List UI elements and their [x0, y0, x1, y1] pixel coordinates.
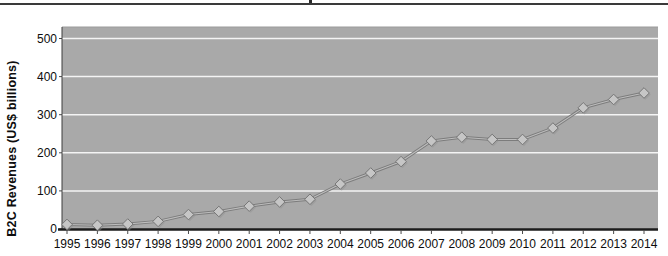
x-tick-label: 2002 [266, 237, 293, 251]
y-tick-label: 200 [37, 146, 57, 160]
x-tick-label: 2006 [388, 237, 415, 251]
x-tick-label: 2000 [205, 237, 232, 251]
y-tick-label: 400 [37, 70, 57, 84]
x-tick-label: 2014 [631, 237, 658, 251]
x-tick-label: 2012 [570, 237, 597, 251]
x-tick-label: 2004 [327, 237, 354, 251]
x-tick-label: 1996 [84, 237, 111, 251]
x-tick-label: 1999 [175, 237, 202, 251]
x-tick-label: 2013 [600, 237, 627, 251]
x-tick-label: 1997 [114, 237, 141, 251]
plot-background [62, 27, 658, 229]
x-tick-label: 2009 [479, 237, 506, 251]
x-tick-label: 1998 [145, 237, 172, 251]
plot-area: 0100200300400500199519961997199819992000… [0, 0, 668, 256]
y-tick-label: 500 [37, 32, 57, 46]
x-tick-label: 2007 [418, 237, 445, 251]
x-tick-label: 2011 [540, 237, 566, 251]
x-tick-label: 1995 [54, 237, 81, 251]
y-tick-label: 0 [50, 222, 57, 236]
x-tick-label: 2008 [448, 237, 475, 251]
x-tick-label: 2001 [236, 237, 263, 251]
y-tick-label: 300 [37, 108, 57, 122]
x-tick-label: 2010 [509, 237, 536, 251]
x-tick-label: 2003 [297, 237, 324, 251]
y-tick-label: 100 [37, 184, 57, 198]
x-tick-label: 2005 [357, 237, 384, 251]
